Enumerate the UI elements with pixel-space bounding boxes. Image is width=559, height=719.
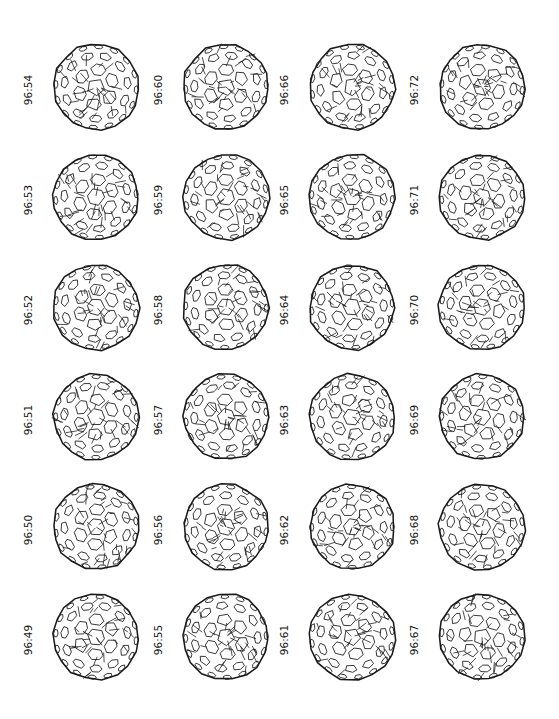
- fullerene-cage-image: [178, 149, 274, 245]
- fullerene-cage-image: [48, 39, 144, 135]
- isomer-label: 96:59: [152, 185, 164, 215]
- fullerene-cage-image: [304, 149, 400, 245]
- isomer-cell: 96:72: [408, 35, 533, 145]
- isomer-label: 96:54: [22, 75, 34, 105]
- fullerene-cage-image: [48, 589, 144, 685]
- isomer-cell: 96:51: [22, 365, 147, 475]
- fullerene-cage-image: [48, 149, 144, 245]
- isomer-cell: 96:63: [278, 365, 403, 475]
- isomer-label: 96:69: [408, 405, 420, 435]
- isomer-label: 96:72: [408, 75, 420, 105]
- isomer-label: 96:55: [152, 625, 164, 655]
- isomer-cell: 96:58: [152, 255, 277, 365]
- fullerene-cage-image: [434, 259, 530, 355]
- isomer-label: 96:57: [152, 405, 164, 435]
- isomer-cell: 96:65: [278, 145, 403, 255]
- fullerene-cage-image: [48, 259, 144, 355]
- isomer-cell: 96:54: [22, 35, 147, 145]
- fullerene-cage-image: [304, 259, 400, 355]
- isomer-cell: 96:69: [408, 365, 533, 475]
- isomer-cell: 96:61: [278, 585, 403, 695]
- isomer-cell: 96:53: [22, 145, 147, 255]
- isomer-cell: 96:55: [152, 585, 277, 695]
- fullerene-cage-image: [178, 39, 274, 135]
- isomer-cell: 96:60: [152, 35, 277, 145]
- isomer-cell: 96:49: [22, 585, 147, 695]
- fullerene-cage-image: [48, 369, 144, 465]
- isomer-label: 96:53: [22, 185, 34, 215]
- isomer-label: 96:64: [278, 295, 290, 325]
- isomer-label: 96:50: [22, 515, 34, 545]
- isomer-label: 96:60: [152, 75, 164, 105]
- fullerene-cage-image: [434, 369, 530, 465]
- fullerene-cage-image: [434, 479, 530, 575]
- fullerene-cage-image: [178, 259, 274, 355]
- isomer-cell: 96:64: [278, 255, 403, 365]
- fullerene-cage-image: [434, 589, 530, 685]
- isomer-cell: 96:52: [22, 255, 147, 365]
- isomer-cell: 96:62: [278, 475, 403, 585]
- isomer-cell: 96:56: [152, 475, 277, 585]
- isomer-cell: 96:59: [152, 145, 277, 255]
- fullerene-cage-image: [304, 589, 400, 685]
- fullerene-cage-image: [178, 479, 274, 575]
- isomer-cell: 96:70: [408, 255, 533, 365]
- isomer-label: 96:56: [152, 515, 164, 545]
- isomer-cell: 96:67: [408, 585, 533, 695]
- fullerene-cage-image: [178, 369, 274, 465]
- isomer-label: 96:70: [408, 295, 420, 325]
- isomer-label: 96:67: [408, 625, 420, 655]
- fullerene-cage-image: [48, 479, 144, 575]
- isomer-label: 96:71: [408, 185, 420, 215]
- fullerene-cage-image: [304, 369, 400, 465]
- isomer-label: 96:66: [278, 75, 290, 105]
- fullerene-cage-image: [434, 39, 530, 135]
- isomer-label: 96:65: [278, 185, 290, 215]
- isomer-label: 96:68: [408, 515, 420, 545]
- fullerene-cage-image: [434, 149, 530, 245]
- isomer-label: 96:61: [278, 625, 290, 655]
- fullerene-cage-image: [304, 479, 400, 575]
- isomer-label: 96:63: [278, 405, 290, 435]
- fullerene-cage-image: [178, 589, 274, 685]
- isomer-label: 96:58: [152, 295, 164, 325]
- isomer-label: 96:51: [22, 405, 34, 435]
- isomer-label: 96:62: [278, 515, 290, 545]
- isomer-cell: 96:68: [408, 475, 533, 585]
- isomer-label: 96:52: [22, 295, 34, 325]
- isomer-cell: 96:71: [408, 145, 533, 255]
- isomer-cell: 96:57: [152, 365, 277, 475]
- isomer-cell: 96:66: [278, 35, 403, 145]
- fullerene-cage-image: [304, 39, 400, 135]
- isomer-cell: 96:50: [22, 475, 147, 585]
- isomer-label: 96:49: [22, 625, 34, 655]
